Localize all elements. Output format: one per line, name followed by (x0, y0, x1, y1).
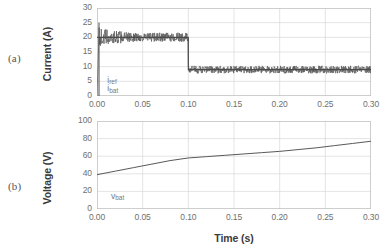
x-axis-title: Time (s) (97, 232, 371, 244)
panel-b-y-tick: 60 (55, 150, 92, 160)
panel-a-y-tick: 15 (55, 46, 92, 56)
panel-b-x-tick: 0.00 (77, 212, 117, 222)
panel-b-x-tick: 0.05 (123, 212, 163, 222)
panel-b-label: (b) (8, 180, 21, 192)
panel-b-x-tick: 0.20 (260, 212, 300, 222)
panel-a-x-tick: 0.10 (168, 99, 208, 109)
panel-b-y-tick: 80 (55, 133, 92, 143)
figure-container: (a) (b) Current (A) Voltage (V) Time (s)… (0, 0, 383, 249)
panel-b-x-tick: 0.30 (351, 212, 383, 222)
panel-a-y-tick: 20 (55, 31, 92, 41)
panel-a-x-tick: 0.20 (260, 99, 300, 109)
panel-b-x-tick: 0.15 (214, 212, 254, 222)
panel-a-x-tick: 0.15 (214, 99, 254, 109)
panel-b-y-tick: 20 (55, 185, 92, 195)
panel-a-label: (a) (8, 52, 21, 64)
panel-a-y-axis-title: Current (A) (41, 4, 53, 104)
panel-a-y-tick: 25 (55, 17, 92, 27)
panel-a-x-tick: 0.25 (305, 99, 345, 109)
panel-a-y-tick: 5 (55, 75, 92, 85)
panel-b-plot-area (97, 121, 371, 209)
series-label-v-bat: vbat (111, 191, 124, 201)
panel-a-plot-area (97, 8, 371, 96)
panel-a-y-tick: 10 (55, 61, 92, 71)
panel-a-x-tick: 0.00 (77, 99, 117, 109)
panel-b-x-tick: 0.25 (305, 212, 345, 222)
panel-b-y-tick: 100 (55, 115, 92, 125)
panel-a-x-tick: 0.30 (351, 99, 383, 109)
panel-a-y-tick: 30 (55, 2, 92, 12)
panel-a-x-tick: 0.05 (123, 99, 163, 109)
panel-b-y-tick: 40 (55, 168, 92, 178)
panel-b-y-axis-title: Voltage (V) (41, 128, 53, 228)
series-label-i-bat: ibat (107, 83, 118, 93)
panel-b-x-tick: 0.10 (168, 212, 208, 222)
